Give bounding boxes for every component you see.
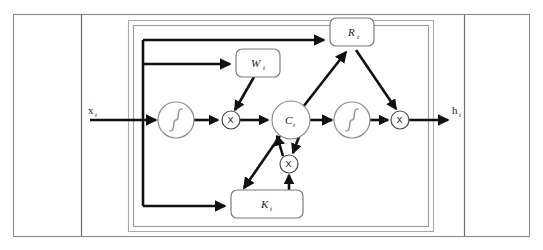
multiply-node-left[interactable]: X — [222, 111, 240, 129]
cell-state-node-label: C — [285, 114, 293, 126]
nodes-group: X C t X X — [158, 101, 409, 173]
multiply-node-right-label: X — [397, 115, 403, 125]
multiply-node-bottom[interactable]: X — [280, 155, 298, 173]
output-subscript: t — [459, 111, 462, 119]
gate-box-w[interactable]: W t — [236, 49, 280, 77]
wire-cell-to-r — [303, 52, 346, 107]
gate-box-r-label: R — [347, 26, 355, 38]
wire-w-to-mul-left — [235, 77, 254, 110]
wire-r-to-mul-right — [356, 50, 396, 109]
multiply-node-bottom-label: X — [286, 159, 292, 169]
output-label: h — [452, 104, 458, 116]
gate-box-k[interactable]: K t — [231, 190, 303, 218]
gate-box-w-label: W — [251, 57, 261, 69]
diagram-canvas: R t W t K t X — [0, 0, 543, 250]
figure-root: R t W t K t X — [0, 0, 543, 250]
multiply-node-left-label: X — [228, 115, 234, 125]
cell-state-node[interactable]: C t — [272, 101, 310, 139]
gate-box-r[interactable]: R t — [330, 18, 374, 46]
input-subscript: t — [95, 111, 98, 119]
input-label: x — [88, 104, 94, 116]
sigmoid-node-right[interactable] — [334, 102, 370, 138]
multiply-node-right[interactable]: X — [391, 111, 409, 129]
gate-box-k-label: K — [260, 198, 269, 210]
sigmoid-node-left[interactable] — [158, 102, 194, 138]
wire-cell-to-k — [244, 136, 280, 188]
